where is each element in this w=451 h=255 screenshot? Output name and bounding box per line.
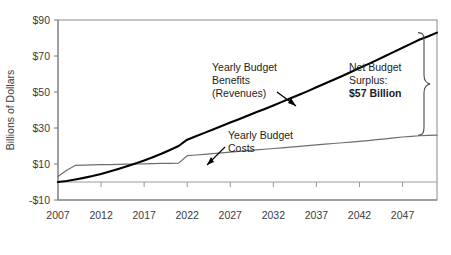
- annotation-benefits-line-1: Yearly Budget: [212, 61, 277, 73]
- y-axis-tick-label: $50: [32, 86, 50, 98]
- annotation-costs-line-1: Yearly Budget: [228, 129, 293, 141]
- y-axis-tick-labels: -$10$10$30$50$70$90: [29, 14, 50, 206]
- y-axis-tick-label: $30: [32, 122, 50, 134]
- x-axis-tick-label: 2012: [89, 209, 113, 221]
- x-axis-tick-label: 2027: [219, 209, 243, 221]
- x-axis-tick-label: 2022: [176, 209, 200, 221]
- x-axis-tick-label: 2037: [305, 209, 329, 221]
- y-axis-title: Billions of Dollars: [4, 70, 16, 151]
- x-axis-tick-labels: 200720122017202220272032203720422047: [46, 209, 414, 221]
- y-axis-tick-label: $10: [32, 158, 50, 170]
- chart-container: -$10$10$30$50$70$90 20072012201720222027…: [0, 0, 451, 255]
- y-axis-tick-label: -$10: [29, 194, 50, 206]
- annotation-benefits-line-2: Benefits: [212, 74, 250, 86]
- budget-line-chart: -$10$10$30$50$70$90 20072012201720222027…: [0, 0, 451, 255]
- x-axis-tick-label: 2017: [132, 209, 156, 221]
- x-axis-tick-label: 2007: [46, 209, 70, 221]
- annotation-surplus-line-2: Surplus:: [349, 74, 388, 86]
- y-axis-tick-label: $70: [32, 50, 50, 62]
- annotation-surplus-value: $57 Billion: [349, 87, 402, 99]
- annotation-benefits-line-3: (Revenues): [212, 87, 266, 99]
- plot-area-border: [58, 20, 437, 200]
- annotation-costs-line-2: Costs: [228, 142, 255, 154]
- x-axis-tick-label: 2047: [391, 209, 415, 221]
- annotation-surplus-line-1: Net Budget: [349, 61, 402, 73]
- y-axis-ticks: [54, 20, 58, 200]
- y-axis-tick-label: $90: [32, 14, 50, 26]
- x-axis-tick-label: 2032: [262, 209, 286, 221]
- x-axis-tick-label: 2042: [348, 209, 372, 221]
